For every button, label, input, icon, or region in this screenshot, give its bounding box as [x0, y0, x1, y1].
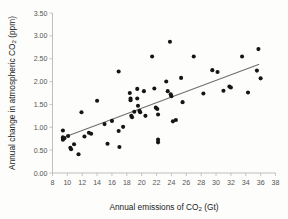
data-point	[143, 114, 147, 118]
data-point	[117, 145, 121, 149]
data-point	[240, 54, 244, 58]
x-tick-label: 22	[153, 179, 161, 187]
x-tick-label: 12	[78, 179, 86, 187]
data-point	[169, 94, 173, 98]
data-point	[152, 86, 156, 90]
data-point	[229, 85, 233, 89]
data-point	[210, 68, 214, 72]
data-point	[155, 107, 159, 111]
data-point	[72, 142, 76, 146]
trend-line	[61, 64, 259, 138]
data-point	[156, 112, 160, 116]
data-point	[117, 69, 121, 73]
y-tick-label: 0.00	[34, 170, 48, 178]
data-point	[156, 140, 160, 144]
data-point	[79, 110, 83, 114]
x-tick-label: 8	[51, 179, 55, 187]
chart-canvas: 0.000.501.001.502.002.503.003.5081012141…	[0, 0, 288, 219]
x-tick-label: 32	[227, 179, 235, 187]
data-point	[179, 76, 183, 80]
data-point	[166, 89, 170, 93]
data-point	[89, 132, 93, 136]
data-point	[201, 91, 205, 95]
data-point	[221, 89, 225, 93]
data-point	[129, 98, 133, 102]
x-tick-label: 26	[182, 179, 190, 187]
x-tick-label: 36	[257, 179, 265, 187]
data-point	[82, 134, 86, 138]
x-tick-label: 34	[242, 179, 250, 187]
data-point	[128, 91, 132, 95]
y-tick-label: 3.50	[34, 10, 48, 18]
x-tick-label: 24	[167, 179, 175, 187]
x-axis-title: Annual emissions of CO2 (Gt)	[109, 202, 218, 212]
data-point	[246, 90, 250, 94]
data-point	[256, 47, 260, 51]
data-point	[255, 69, 259, 73]
data-point	[130, 115, 134, 119]
data-point	[117, 129, 121, 133]
x-tick-label: 18	[123, 179, 131, 187]
data-point	[66, 134, 70, 138]
data-point	[102, 122, 106, 126]
data-point	[95, 99, 99, 103]
data-point	[150, 54, 154, 58]
data-point	[132, 110, 136, 114]
y-tick-label: 2.50	[34, 55, 48, 63]
x-tick-label: 28	[197, 179, 205, 187]
y-tick-label: 2.00	[34, 78, 48, 86]
x-tick-label: 16	[108, 179, 116, 187]
x-tick-label: 14	[93, 179, 101, 187]
data-point	[135, 96, 139, 100]
data-point	[174, 118, 178, 122]
data-point	[181, 100, 185, 104]
data-point	[121, 125, 125, 129]
data-point	[168, 40, 172, 44]
data-point	[192, 54, 196, 58]
data-point	[142, 89, 146, 93]
data-point	[76, 152, 80, 156]
data-point	[135, 87, 139, 91]
y-axis-title: Annual change in atmospheric CO2 (ppm)	[7, 16, 17, 170]
y-tick-label: 3.00	[34, 32, 48, 40]
y-tick-label: 1.00	[34, 124, 48, 132]
data-point	[164, 80, 168, 84]
y-tick-label: 0.50	[34, 147, 48, 155]
x-tick-label: 30	[212, 179, 220, 187]
data-point	[61, 128, 65, 132]
data-point	[215, 70, 219, 74]
x-tick-label: 38	[272, 179, 280, 187]
x-tick-label: 20	[138, 179, 146, 187]
y-tick-label: 1.50	[34, 101, 48, 109]
x-tick-label: 10	[63, 179, 71, 187]
data-point	[69, 147, 73, 151]
scatter-chart: 0.000.501.001.502.002.503.003.5081012141…	[0, 0, 288, 219]
data-point	[105, 142, 109, 146]
data-point	[138, 110, 142, 114]
data-point	[62, 136, 66, 140]
data-point	[110, 119, 114, 123]
data-point	[136, 104, 140, 108]
data-point	[259, 76, 263, 80]
